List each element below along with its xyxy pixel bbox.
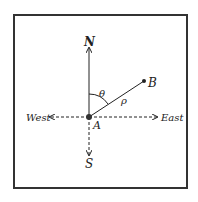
- radius-line: [89, 81, 144, 117]
- label-south: S: [85, 157, 93, 171]
- label-west: West: [26, 112, 52, 123]
- label-a: A: [92, 119, 101, 132]
- label-east: East: [160, 112, 184, 123]
- point-b-dot: [142, 79, 146, 83]
- label-theta: θ: [99, 88, 105, 99]
- label-b: B: [147, 76, 157, 90]
- label-rho: ρ: [120, 95, 127, 106]
- compass-diagram: N S East West A B θ ρ: [0, 0, 198, 202]
- origin-mark: [86, 114, 92, 120]
- label-north: N: [83, 35, 96, 49]
